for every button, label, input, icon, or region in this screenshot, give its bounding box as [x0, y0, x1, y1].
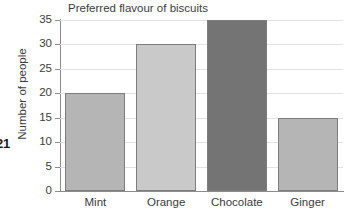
bar-mint: [65, 93, 125, 191]
bar-chart-figure: 21 Preferred flavour of biscuits Number …: [0, 0, 357, 223]
y-axis-tick-label: 5: [0, 161, 52, 173]
y-axis-tick-label: 0: [0, 185, 52, 197]
y-axis-tick-label: 10: [0, 136, 52, 148]
y-axis-tick-label: 35: [0, 14, 52, 26]
x-axis-label-orange: Orange: [131, 197, 202, 209]
y-axis-tick-label: 30: [0, 38, 52, 50]
plot-area: [60, 20, 343, 191]
y-axis-tick: [55, 191, 60, 192]
chart-title: Preferred flavour of biscuits: [68, 2, 208, 15]
y-axis-tick-label: 20: [0, 87, 52, 99]
bar-ginger: [278, 118, 338, 191]
x-axis-label-chocolate: Chocolate: [202, 197, 273, 209]
y-axis-tick-label: 15: [0, 112, 52, 124]
x-axis-label-ginger: Ginger: [272, 197, 343, 209]
x-axis-label-mint: Mint: [60, 197, 131, 209]
bar-orange: [136, 44, 196, 191]
y-axis-tick-label: 25: [0, 63, 52, 75]
x-axis-line: [60, 191, 344, 192]
bar-chocolate: [207, 20, 267, 191]
